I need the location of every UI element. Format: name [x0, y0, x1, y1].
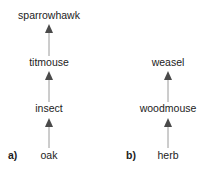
arrow-woodmouse-to-weasel	[164, 71, 172, 102]
node-oak: oak	[41, 149, 58, 161]
node-insect: insect	[35, 102, 62, 114]
chain-a-label: a)	[8, 149, 17, 161]
arrows-layer	[0, 0, 218, 170]
node-woodmouse: woodmouse	[140, 102, 197, 114]
chain-b-label: b)	[126, 149, 136, 161]
node-weasel: weasel	[152, 56, 185, 68]
chain-a-arrows	[45, 24, 53, 148]
arrow-insect-to-titmouse	[45, 71, 53, 102]
node-titmouse: titmouse	[29, 56, 69, 68]
arrow-oak-to-insect	[45, 118, 53, 148]
node-sparrowhawk: sparrowhawk	[18, 9, 80, 21]
arrow-herb-to-woodmouse	[164, 118, 172, 148]
node-herb: herb	[157, 149, 178, 161]
arrow-titmouse-to-sparrowhawk	[45, 24, 53, 56]
